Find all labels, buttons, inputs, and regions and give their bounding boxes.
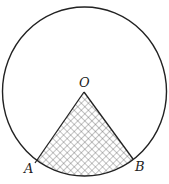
circle-sector-diagram: O A B: [0, 0, 169, 184]
shaded-sector: [25, 92, 145, 184]
label-O: O: [79, 75, 90, 90]
label-B: B: [134, 159, 145, 174]
label-A: A: [23, 161, 33, 176]
